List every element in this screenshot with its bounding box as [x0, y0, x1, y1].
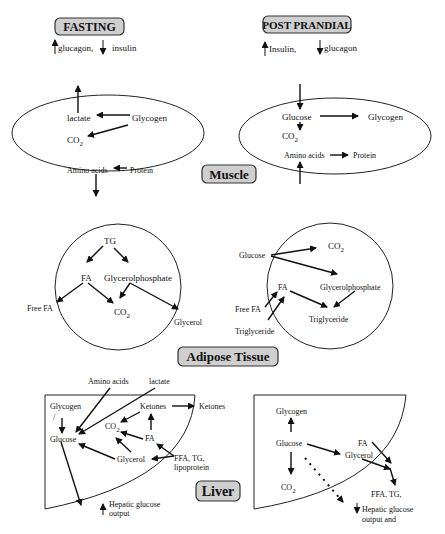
glycerol-to-co2-arrow — [116, 438, 131, 452]
adipose-fed-glycerolphosphate: Glycerolphosphate — [320, 283, 381, 292]
adipose-badge: Adipose Tissue — [178, 347, 278, 366]
tg-to-fa-arrow — [87, 246, 103, 262]
adipose-glycerolphosphate: Glycerolphosphate — [104, 273, 172, 283]
ffa-to-glycerol-arrow — [152, 456, 174, 459]
muscle-label: Muscle — [209, 167, 249, 182]
muscle-fasting: lactate Glycogen CO2 Amino acids Protein — [12, 86, 204, 196]
adipose-label: Adipose Tissue — [187, 349, 270, 364]
glucose-to-gp-arrow — [271, 256, 337, 274]
muscle-fed-glycogen: Glycogen — [368, 112, 403, 122]
adipose-postprandial: Glucose CO2 FA Glycerolphosphate Triglyc… — [235, 223, 393, 349]
liver-hepatic-glucose: Hepatic glucose — [109, 500, 161, 509]
freefa-to-fa-arrow — [265, 292, 277, 307]
liver-fed-co2: CO2 — [281, 483, 296, 495]
liver-glycerol: Glycerol — [117, 455, 146, 464]
ketones-to-co2-arrow — [121, 412, 140, 422]
liver-lactate: lactate — [149, 377, 170, 386]
adipose-fed-triglyceride-in: Triglyceride — [235, 327, 275, 336]
fa-to-trig-arrow — [290, 291, 327, 307]
adipose-fed-free-fa: Free FA — [235, 305, 261, 314]
adipose-co2: CO2 — [114, 307, 131, 320]
liver-fasting-cell — [45, 395, 195, 509]
postprandial-insulin-label: Insulin, — [269, 44, 296, 54]
muscle-fed-cell — [239, 98, 431, 174]
muscle-fed-glucose: Glucose — [282, 112, 312, 122]
liver-ffa-tg: FFA, TG, — [174, 454, 205, 463]
liver-postprandial: Glycogen Glucose CO2 FA Glycerol FFA, TG… — [254, 395, 414, 524]
adipose-glycerol: Glycerol — [174, 318, 203, 327]
metabolism-diagram: FASTING glucagon, insulin POST PRANDIAL … — [0, 0, 445, 534]
tg-to-gp-arrow — [114, 248, 128, 262]
fa-to-co2-arrow — [121, 432, 143, 439]
glycerol-to-ffa-arrow — [362, 459, 390, 469]
adipose-fed-co2: CO2 — [328, 241, 345, 254]
glycerol-to-glucose-arrow — [79, 444, 115, 459]
liver-label: Liver — [202, 484, 235, 499]
liver-slash-mark: / — [53, 413, 56, 422]
liver-badge: Liver — [196, 481, 240, 501]
liver-fed-output-and: output and — [362, 515, 396, 524]
liver-fed-fa: FA — [358, 439, 368, 448]
adipose-fed-fa: FA — [278, 283, 288, 292]
liver-ketones: Ketones — [140, 402, 166, 411]
fasting-header: FASTING glucagon, insulin — [55, 18, 137, 54]
muscle-fasting-cell — [12, 95, 204, 171]
muscle-postprandial: Glucose Glycogen CO2 Amino acids Protein — [239, 84, 431, 184]
adipose-fasting-cell — [55, 224, 181, 350]
muscle-fed-protein: Protein — [353, 151, 376, 160]
fasting-title: FASTING — [63, 20, 115, 34]
liver-amino-acids: Amino acids — [88, 377, 129, 386]
liver-fed-ffa-tg: FFA, TG, — [371, 490, 402, 499]
gp-to-co2-arrow — [120, 283, 130, 298]
liver-fa: FA — [145, 434, 155, 443]
adipose-fasting: TG FA Glycerolphosphate Free FA CO2 Glyc… — [27, 224, 203, 350]
muscle-protein: Protein — [130, 166, 153, 175]
muscle-fed-amino-acids: Amino acids — [284, 151, 325, 160]
liver-lipoprotein: lipoprotein — [174, 463, 209, 472]
postprandial-title: POST PRANDIAL — [262, 19, 351, 31]
glucose-out-arrow — [61, 442, 81, 505]
to-ffa-tg-arrow — [390, 468, 395, 485]
liver-fed-glucose: Glucose — [276, 439, 303, 448]
liver-output: output — [109, 509, 130, 518]
muscle-co2: CO2 — [67, 135, 84, 148]
fasting-glucagon-label: glucagon, — [58, 43, 93, 53]
fasting-insulin-label: insulin — [112, 43, 137, 53]
gp-to-trig-arrow — [334, 291, 355, 307]
liver-glucose: Glucose — [50, 435, 77, 444]
muscle-lactate: lactate — [67, 113, 90, 123]
liver-glycogen: Glycogen — [50, 402, 81, 411]
liver-co2: CO2 — [105, 422, 120, 434]
adipose-fed-triglyceride: Triglyceride — [309, 315, 349, 324]
liver-fed-glycerol: Glycerol — [345, 451, 374, 460]
postprandial-header: POST PRANDIAL Insulin, glucagon — [262, 16, 357, 56]
glucose-to-fa-glycerol-arrow — [307, 444, 340, 454]
muscle-glycogen: Glycogen — [132, 113, 167, 123]
fa-to-co2-arrow — [88, 283, 113, 303]
muscle-badge: Muscle — [202, 165, 256, 183]
liver-fed-glycogen: Glycogen — [276, 407, 307, 416]
muscle-amino-acids: Amino acids — [67, 166, 108, 175]
adipose-fa: FA — [81, 273, 92, 283]
glycogen-to-co2-arrow — [88, 125, 128, 136]
postprandial-glucagon-label: glucagon — [324, 43, 357, 53]
liver-fed-hepatic-glucose: Hepatic glucose — [362, 505, 414, 514]
ffa-to-fa-arrow — [157, 444, 174, 456]
adipose-tg: TG — [104, 236, 116, 246]
fa-to-freefa-arrow — [57, 283, 83, 302]
liver-ketones-out: Ketones — [199, 402, 225, 411]
adipose-fed-glucose: Glucose — [239, 251, 266, 260]
muscle-fed-co2: CO2 — [282, 131, 299, 144]
gp-to-glycerol-arrow — [130, 283, 178, 309]
adipose-free-fa: Free FA — [27, 304, 53, 313]
